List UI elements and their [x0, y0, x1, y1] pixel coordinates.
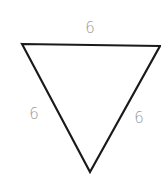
top-side-label: 6	[85, 19, 95, 37]
triangle-shape	[22, 44, 160, 172]
left-side-label: 6	[29, 105, 39, 123]
right-side-label: 6	[134, 109, 144, 127]
triangle-diagram: 6 6 6	[0, 0, 161, 178]
